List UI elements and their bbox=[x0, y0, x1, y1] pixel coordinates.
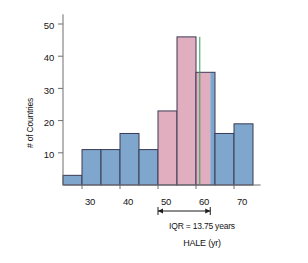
iqr-annotation-label: IQR = 13.75 years bbox=[152, 221, 252, 231]
iqr-bracket bbox=[158, 207, 210, 215]
xtick-label-70: 70 bbox=[231, 196, 253, 207]
ytick-label-40: 40 bbox=[36, 52, 54, 63]
histogram-bar bbox=[158, 111, 177, 185]
xtick-label-50: 50 bbox=[155, 196, 177, 207]
ytick-label-10: 10 bbox=[36, 149, 54, 160]
histogram-bar bbox=[101, 150, 120, 185]
histogram-bar bbox=[177, 37, 196, 185]
histogram-bar bbox=[63, 175, 82, 185]
histogram-bar bbox=[82, 150, 101, 185]
y-axis-title: # of Countries bbox=[25, 98, 35, 148]
histogram-bar bbox=[120, 133, 139, 185]
histogram-figure: 50 40 30 20 10 30 40 50 60 70 # of Count… bbox=[0, 0, 308, 263]
histogram-bar bbox=[215, 133, 234, 185]
histogram-bar bbox=[234, 124, 253, 185]
x-axis-title: HALE (yr) bbox=[152, 238, 252, 248]
ytick-label-20: 20 bbox=[36, 117, 54, 128]
xtick-label-30: 30 bbox=[79, 196, 101, 207]
xtick-label-40: 40 bbox=[117, 196, 139, 207]
ytick-label-50: 50 bbox=[36, 20, 54, 31]
histogram-bar bbox=[196, 72, 215, 185]
histogram-bar bbox=[139, 150, 158, 185]
ytick-label-30: 30 bbox=[36, 85, 54, 96]
xtick-label-60: 60 bbox=[193, 196, 215, 207]
